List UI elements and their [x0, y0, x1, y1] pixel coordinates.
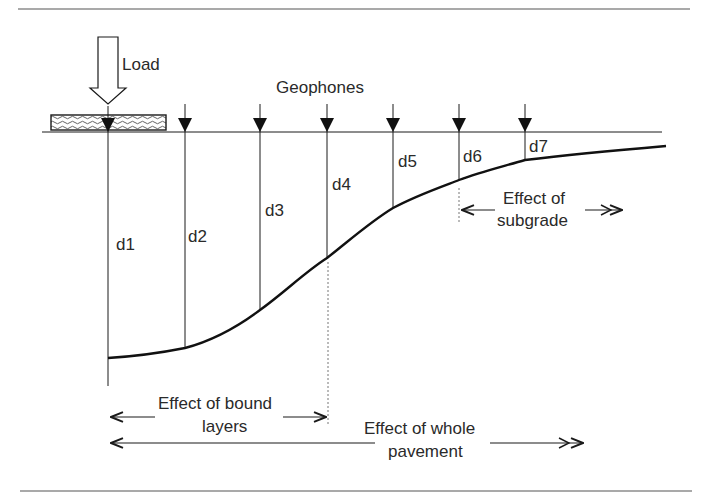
geophone-marker-icon [320, 118, 334, 132]
deflection-label-d3: d3 [265, 201, 284, 220]
subgrade-label-line2: subgrade [497, 211, 568, 230]
load-arrow-icon [90, 37, 126, 104]
deflection-label-d2: d2 [188, 227, 207, 246]
bound-label-line2: layers [202, 417, 247, 436]
deflection-label-d1: d1 [116, 235, 135, 254]
deflection-label-d6: d6 [463, 147, 482, 166]
geophone-marker-icon [253, 118, 267, 132]
deflection-label-d4: d4 [332, 175, 351, 194]
deflection-label-d7: d7 [529, 137, 548, 156]
geophone-marker-icon [518, 118, 532, 132]
geophone-marker-icon [178, 118, 192, 132]
whole-label-line1: Effect of whole [364, 419, 475, 438]
deflection-label-d5: d5 [398, 152, 417, 171]
geophones-label: Geophones [276, 78, 364, 97]
deflection-bowl-curve [108, 146, 666, 358]
geophone-marker-icon [386, 118, 400, 132]
fwd-deflection-diagram: Load Geophones d1 d2 d3 d4 d5 d6 d7 [0, 0, 717, 504]
whole-label-line2: pavement [388, 442, 463, 461]
geophone-2 [178, 104, 192, 348]
load-label: Load [122, 55, 160, 74]
bound-label-line1: Effect of bound [158, 394, 272, 413]
geophone-marker-icon [452, 118, 466, 132]
subgrade-label-line1: Effect of [503, 189, 565, 208]
geophone-1 [101, 106, 115, 386]
geophone-6 [452, 104, 466, 180]
